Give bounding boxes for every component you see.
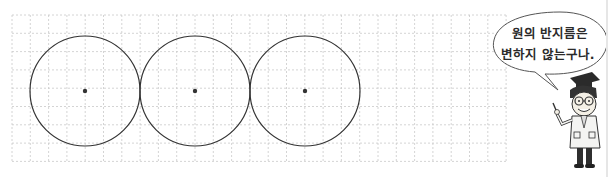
bubble-line-2: 변하지 않는구나. xyxy=(501,47,594,62)
bubble-line-1: 원의 반지름은 xyxy=(512,26,588,41)
page-edge-rule xyxy=(606,0,608,177)
grid-paper xyxy=(12,15,506,161)
center-point xyxy=(83,89,87,93)
diagram-canvas: 원의 반지름은 변하지 않는구나. xyxy=(0,0,611,177)
center-point xyxy=(303,89,307,93)
professor-character xyxy=(553,72,600,168)
center-point xyxy=(193,89,197,93)
